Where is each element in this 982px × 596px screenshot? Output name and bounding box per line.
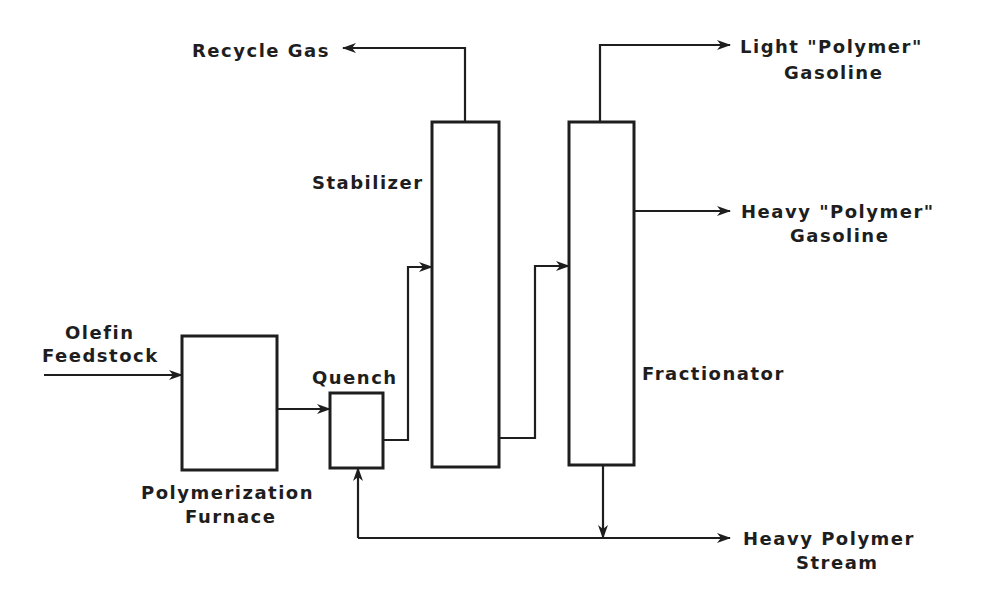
light-gasoline-label-line2: Gasoline [784, 62, 883, 83]
fractionator-label: Fractionator [642, 363, 785, 384]
feed-label-line1: Olefin [65, 322, 135, 343]
stabilizer-column [432, 122, 499, 467]
stabilizer-to-fractionator-arrow [499, 266, 569, 438]
heavy-polymer-stream-label-line1: Heavy Polymer [743, 528, 915, 549]
quench-box [330, 393, 383, 468]
quench-label: Quench [312, 367, 398, 388]
furnace-label-line1: Polymerization [141, 482, 314, 503]
heavy-gasoline-label-line2: Gasoline [790, 225, 889, 246]
light-gasoline-label-line1: Light "Polymer" [740, 36, 923, 57]
furnace-label-line2: Furnace [185, 506, 276, 527]
heavy-gasoline-label-line1: Heavy "Polymer" [741, 201, 935, 222]
quench-to-stabilizer-arrow [383, 267, 432, 440]
light-gasoline-arrow [600, 45, 730, 122]
recycle-gas-arrow [343, 48, 465, 122]
feed-label-line2: Feedstock [42, 345, 159, 366]
fractionator-column [569, 122, 634, 465]
stabilizer-label: Stabilizer [312, 172, 424, 193]
polymerization-furnace-box [182, 336, 277, 470]
process-flow-diagram: Recycle Gas Stabilizer Light "Polymer" G… [0, 0, 982, 596]
recycle-gas-label: Recycle Gas [192, 40, 330, 61]
heavy-polymer-stream-label-line2: Stream [796, 552, 879, 573]
